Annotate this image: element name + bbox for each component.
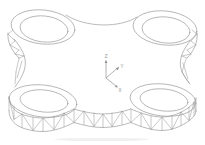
lobe-top-right-inner-edge [141, 15, 191, 46]
lobe-inner-circles [19, 14, 191, 115]
lobe-top-left-inner-edge [19, 14, 69, 45]
ucs-axis-triad: Z Y X [105, 54, 124, 94]
lobe-top-left-outer-edge [9, 7, 76, 48]
lobe-bottom-right-inner-edge [139, 87, 189, 114]
z-axis-arrowhead-icon [105, 60, 108, 64]
y-axis-arrowhead-icon [116, 67, 119, 71]
ground-shadow [54, 138, 150, 141]
top-right-strip-facets [182, 30, 197, 83]
wireframe-part-drawing: Z Y X [0, 0, 205, 145]
cad-viewport[interactable]: Z Y X [0, 0, 205, 145]
top-concave-edge [66, 15, 137, 25]
left-concave-edge [14, 39, 25, 87]
y-axis-label: Y [121, 64, 124, 69]
top-face-outline [8, 7, 199, 121]
x-axis-line [106, 78, 116, 86]
z-axis-label: Z [105, 54, 108, 59]
lobe-bottom-left-inner-edge [19, 88, 69, 115]
lobe-top-right-outer-edge [131, 8, 198, 49]
y-axis-line [106, 69, 117, 79]
x-axis-label: X [119, 88, 122, 93]
lobe-bottom-right-outer-edge [129, 81, 198, 120]
